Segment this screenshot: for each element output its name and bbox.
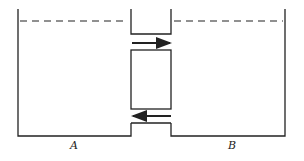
diagram-canvas xyxy=(0,0,304,161)
label-b: B xyxy=(228,139,236,152)
container-a-outline xyxy=(18,9,131,136)
middle-block xyxy=(131,50,171,109)
label-a: A xyxy=(70,139,78,152)
container-b-outline xyxy=(171,9,285,136)
upper-divider xyxy=(131,9,171,34)
